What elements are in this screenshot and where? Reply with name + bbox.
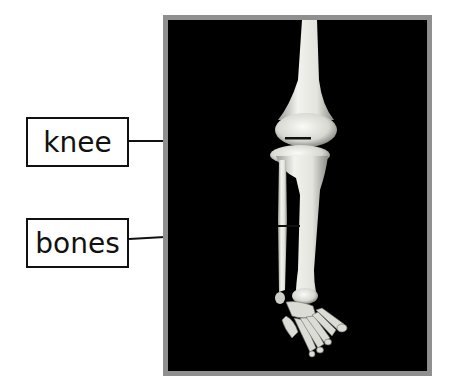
foot-bones [282, 302, 347, 358]
label-bones-text: bones [35, 227, 119, 260]
bones-indicator-line [278, 225, 300, 227]
label-bones: bones [26, 218, 129, 268]
label-knee: knee [26, 117, 129, 167]
leader-line-knee [129, 140, 165, 142]
label-knee-text: knee [43, 126, 111, 159]
knee-indicator-line [285, 137, 311, 140]
fibula [275, 160, 287, 304]
skeleton-photo-frame [163, 15, 432, 376]
leg-skeleton-illustration [168, 20, 427, 371]
leader-line-bones [129, 236, 165, 240]
femur [275, 20, 337, 147]
